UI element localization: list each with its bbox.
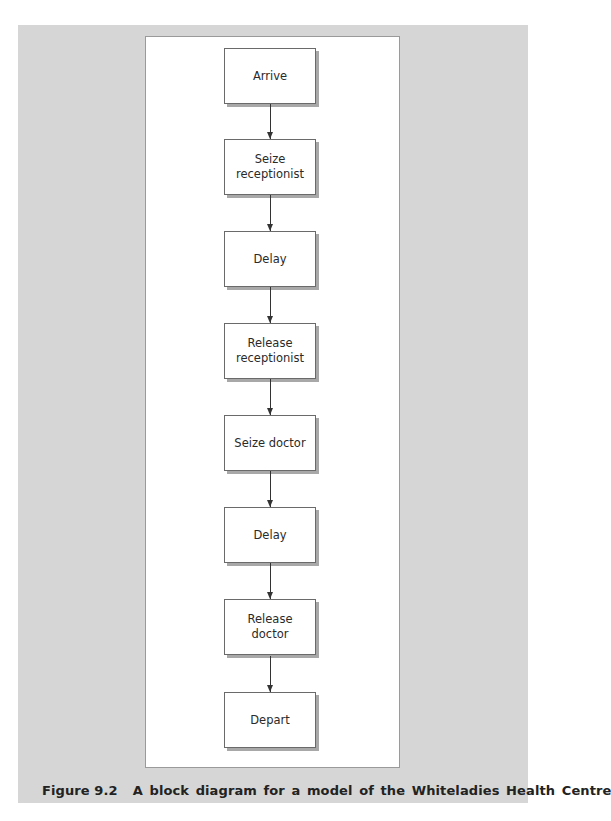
block-label: Release doctor [240, 612, 300, 642]
arrow-down-icon [270, 379, 271, 415]
block-label: Seize doctor [234, 436, 305, 451]
figure-caption: Figure 9.2 A block diagram for a model o… [42, 783, 512, 798]
block-arrive: Arrive [224, 48, 316, 104]
arrow-down-icon [270, 563, 271, 599]
block-delay-2: Delay [224, 507, 316, 563]
block-label: Delay [254, 528, 287, 543]
arrow-down-icon [270, 104, 271, 139]
block-delay-1: Delay [224, 231, 316, 287]
arrow-down-icon [270, 656, 271, 692]
block-seize-doctor: Seize doctor [224, 415, 316, 471]
block-depart: Depart [224, 692, 316, 748]
block-label: Depart [250, 713, 290, 728]
arrow-down-icon [270, 195, 271, 231]
block-label: Seize receptionist [230, 152, 310, 182]
block-release-receptionist: Release receptionist [224, 323, 316, 379]
figure-label: Figure 9.2 [42, 783, 118, 798]
arrow-down-icon [270, 287, 271, 323]
block-seize-receptionist: Seize receptionist [224, 139, 316, 195]
block-label: Release receptionist [230, 336, 310, 366]
arrow-down-icon [270, 471, 271, 507]
figure-title: A block diagram for a model of the White… [133, 783, 611, 798]
block-label: Arrive [253, 69, 287, 84]
block-label: Delay [254, 252, 287, 267]
block-release-doctor: Release doctor [224, 599, 316, 655]
